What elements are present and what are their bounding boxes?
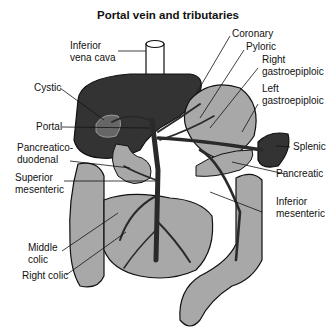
label-pancreaticoduodenal: Pancreatico- duodenal: [17, 142, 73, 166]
label-inferior-vena-cava: Inferior vena cava: [70, 40, 116, 64]
label-left-gastroepiploic: Left gastroepiploic: [262, 83, 324, 107]
label-splenic: Splenic: [293, 141, 326, 153]
label-portal: Portal: [36, 121, 62, 133]
label-right-gastroepiploic: Right gastroepiploic: [262, 54, 324, 78]
label-middle-colic: Middle colic: [28, 242, 57, 266]
label-right-colic: Right colic: [22, 270, 68, 282]
label-superior-mesenteric: Superior mesenteric: [15, 172, 64, 196]
label-pyloric: Pyloric: [246, 41, 276, 53]
label-coronary: Coronary: [232, 28, 273, 40]
label-cystic: Cystic: [34, 82, 61, 94]
label-pancreatic: Pancreatic: [276, 168, 323, 180]
label-inferior-mesenteric: Inferior mesenteric: [276, 196, 325, 220]
